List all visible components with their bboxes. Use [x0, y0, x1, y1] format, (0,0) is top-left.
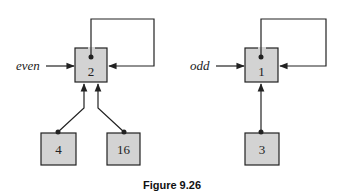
node-3-value: 3 [259, 142, 266, 157]
node-2-pointer-dot [89, 55, 94, 60]
node-2-value: 2 [88, 64, 95, 79]
disjoint-set-diagram: even 2 4 16 odd 1 [0, 0, 344, 194]
even-tree: even 2 4 16 [16, 19, 154, 165]
node-16-value: 16 [117, 142, 131, 157]
node-3-pointer-dot [259, 130, 264, 135]
node-1-value: 1 [258, 64, 265, 79]
odd-label: odd [190, 58, 210, 73]
node-16-pointer-dot [122, 130, 127, 135]
edge-16-to-2 [98, 84, 124, 132]
node-4-pointer-dot [56, 130, 61, 135]
figure-caption: Figure 9.26 [143, 179, 201, 191]
edge-4-to-2 [58, 84, 84, 132]
node-4: 4 [41, 133, 76, 165]
node-4-value: 4 [55, 142, 62, 157]
node-3: 3 [245, 133, 279, 165]
even-label: even [16, 58, 40, 73]
node-1-pointer-dot [259, 55, 264, 60]
odd-tree: odd 1 3 [190, 19, 326, 165]
node-16: 16 [107, 133, 140, 165]
